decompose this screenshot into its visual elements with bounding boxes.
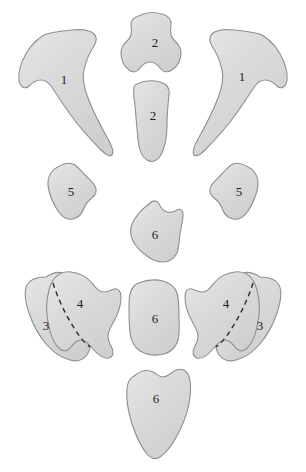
bone-fragment-diagram: 1122556663434	[0, 0, 306, 472]
bone-shape-vertebra-lower	[129, 280, 179, 355]
diagram-canvas: 1122556663434	[0, 0, 306, 472]
